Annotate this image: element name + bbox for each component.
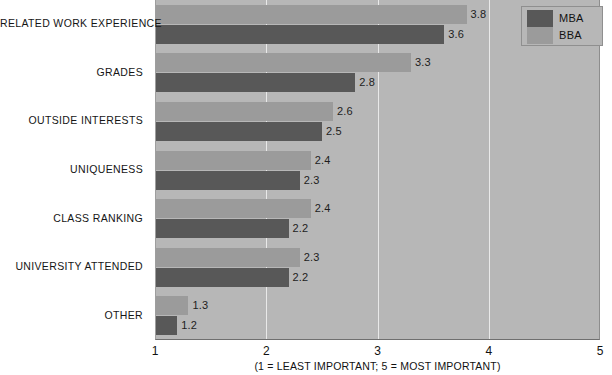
legend-swatch-mba-icon xyxy=(527,10,553,27)
bar-bba xyxy=(155,248,300,267)
category-label: GRADES xyxy=(0,66,150,78)
bar-value-mba: 2.2 xyxy=(293,268,309,287)
bar-value-mba: 2.3 xyxy=(304,171,320,190)
bar-bba xyxy=(155,53,411,72)
plot-area xyxy=(155,0,600,340)
bar-value-bba: 3.8 xyxy=(471,5,487,24)
x-tick-label: 3 xyxy=(363,344,393,358)
bar-bba xyxy=(155,151,311,170)
bar-mba xyxy=(155,219,289,238)
category-label: OTHER xyxy=(0,309,150,321)
bar-value-bba: 2.6 xyxy=(337,102,353,121)
bar-value-mba: 3.6 xyxy=(448,25,464,44)
legend: MBA BBA xyxy=(521,6,603,46)
category-label: OUTSIDE INTERESTS xyxy=(0,114,150,126)
legend-swatch-bba-icon xyxy=(527,27,553,44)
bar-value-mba: 2.2 xyxy=(293,219,309,238)
bar-value-bba: 2.3 xyxy=(304,248,320,267)
bar-bba xyxy=(155,199,311,218)
x-axis-title: (1 = LEAST IMPORTANT; 5 = MOST IMPORTANT… xyxy=(155,360,600,372)
gridline xyxy=(378,0,379,340)
x-tick-label: 5 xyxy=(585,344,612,358)
legend-label-bba: BBA xyxy=(559,27,582,44)
bar-value-mba: 2.5 xyxy=(326,122,342,141)
legend-label-mba: MBA xyxy=(559,10,584,27)
bar-mba xyxy=(155,171,300,190)
bar-value-mba: 2.8 xyxy=(359,73,375,92)
category-label: RELATED WORK EXPERIENCE xyxy=(0,17,150,29)
category-label: UNIQUENESS xyxy=(0,163,150,175)
bar-mba xyxy=(155,316,177,335)
bar-mba xyxy=(155,122,322,141)
category-label: UNIVERSITY ATTENDED xyxy=(0,260,150,272)
bar-value-bba: 2.4 xyxy=(315,199,331,218)
bar-bba xyxy=(155,102,333,121)
bar-value-bba: 1.3 xyxy=(192,296,208,315)
x-tick-label: 4 xyxy=(474,344,504,358)
bar-value-bba: 2.4 xyxy=(315,151,331,170)
gridline xyxy=(489,0,490,340)
category-label: CLASS RANKING xyxy=(0,212,150,224)
x-tick-label: 2 xyxy=(251,344,281,358)
bar-mba xyxy=(155,73,355,92)
bar-bba xyxy=(155,5,467,24)
bar-chart: RELATED WORK EXPERIENCEGRADESOUTSIDE INT… xyxy=(0,0,612,375)
bar-value-bba: 3.3 xyxy=(415,53,431,72)
bar-mba xyxy=(155,25,444,44)
bar-bba xyxy=(155,296,188,315)
x-tick-label: 1 xyxy=(140,344,170,358)
bar-mba xyxy=(155,268,289,287)
bar-value-mba: 1.2 xyxy=(181,316,197,335)
